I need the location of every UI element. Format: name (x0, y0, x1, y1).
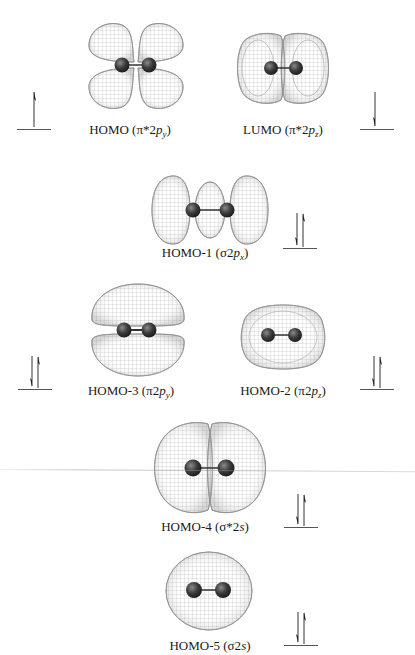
homo-1-orbital-image (150, 170, 270, 254)
energy-level-bar (283, 248, 317, 249)
homo-3-orbital-image (88, 280, 188, 384)
spin-paired-arrows-icon (284, 610, 320, 646)
spin-paired-arrows-icon (283, 211, 319, 249)
homo-4-label: HOMO-4 (σ*2s) (161, 519, 249, 535)
energy-level-bar (284, 645, 318, 646)
energy-level-bar (18, 389, 52, 390)
homo-1-label: HOMO-1 (σ2px) (162, 245, 249, 261)
spin-paired-arrows-icon (284, 492, 320, 528)
energy-level-bar (360, 129, 394, 130)
homo-5-energy-level (284, 610, 320, 646)
homo-5-orbital-image (164, 550, 254, 636)
homo-3-label: HOMO-3 (π2py) (88, 383, 174, 399)
energy-level-bar (360, 389, 394, 390)
spin-paired-arrows-icon (360, 354, 396, 390)
lumo-orbital-image (233, 30, 333, 112)
homo-orbital-image (82, 18, 190, 118)
homo-2-energy-level (360, 354, 396, 390)
lumo-label: LUMO (π*2pz) (243, 122, 323, 138)
homo-1-energy-level (283, 211, 319, 249)
spin-up-arrow-icon (17, 88, 53, 130)
homo-2-label: HOMO-2 (π2pz) (240, 383, 326, 399)
energy-level-bar (284, 527, 318, 528)
energy-level-bar (17, 129, 51, 130)
spin-paired-arrows-icon (18, 354, 54, 390)
lumo-energy-level (360, 88, 396, 130)
homo-4-energy-level (284, 492, 320, 528)
homo-label: HOMO (π*2py) (89, 122, 171, 138)
homo-energy-level (17, 88, 53, 130)
homo-5-label: HOMO-5 (σ2s) (169, 638, 250, 654)
homo-2-orbital-image (238, 303, 328, 375)
spin-down-arrow-icon (360, 88, 396, 130)
homo-3-energy-level (18, 354, 54, 390)
